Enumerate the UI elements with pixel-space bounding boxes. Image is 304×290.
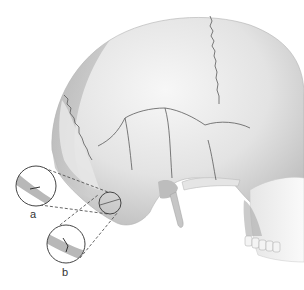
mastoid-styloid [158,180,183,227]
inset-label-a: a [30,208,36,220]
zygomatic-arch [182,178,240,190]
inset-a [10,166,60,212]
inset-b [44,225,90,263]
inset-label-b: b [62,266,68,278]
skull-illustration [0,0,304,290]
facial-skeleton [244,177,304,262]
